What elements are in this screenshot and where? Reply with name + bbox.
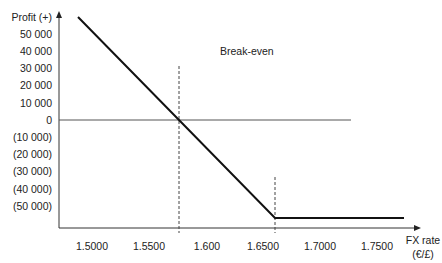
x-tick-label: 1.7500 [361,240,393,252]
x-tick-label: 1.6500 [247,240,279,252]
x-axis-arrow-icon [414,225,421,231]
y-tick-label: (10 000) [13,131,52,143]
x-tick-label: 1.5000 [76,240,108,252]
y-axis-title: Profit (+) [11,11,52,23]
y-tick-labels: Profit (+) 50 000 40 000 30 000 20 000 1… [11,11,52,212]
y-tick-label: (20 000) [13,148,52,160]
x-tick-label: 1.600 [194,240,220,252]
y-tick-label: 40 000 [20,45,52,57]
x-tick-label: 1.5500 [133,240,165,252]
x-axis-title: FX rate [406,234,441,246]
profit-fx-chart: Profit (+) 50 000 40 000 30 000 20 000 1… [0,0,442,263]
y-tick-label: 10 000 [20,97,52,109]
y-tick-label: (30 000) [13,165,52,177]
y-tick-label: 20 000 [20,79,52,91]
x-tick-label: 1.7000 [304,240,336,252]
y-tick-label: (40 000) [13,183,52,195]
x-axis-unit: (€/£) [412,248,434,260]
x-tick-labels: 1.5000 1.5500 1.600 1.6500 1.7000 1.7500… [76,234,440,260]
y-axis-arrow-icon [56,11,62,18]
y-tick-label: (50 000) [13,200,52,212]
y-tick-label: 50 000 [20,28,52,40]
break-even-annotation: Break-even [220,45,274,57]
y-tick-label: 30 000 [20,62,52,74]
y-tick-label: 0 [46,114,52,126]
